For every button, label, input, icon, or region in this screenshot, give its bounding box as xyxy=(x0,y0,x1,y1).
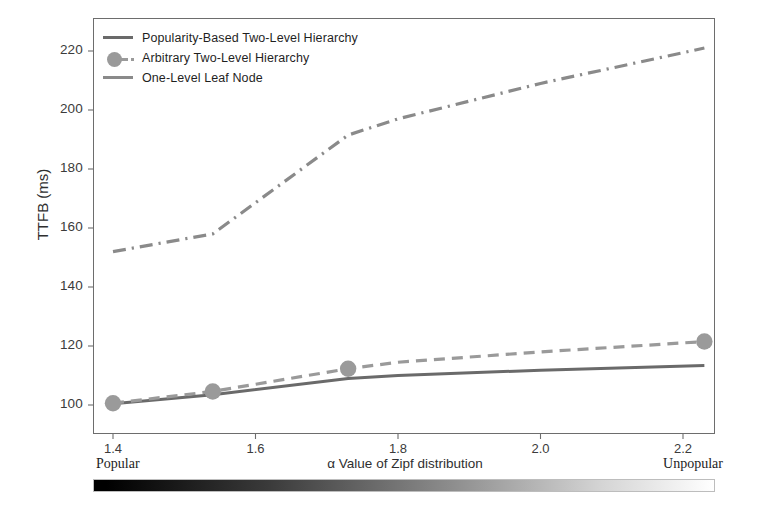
x-tick-label: 1.6 xyxy=(226,441,286,456)
x-tick-label: 1.4 xyxy=(83,441,143,456)
x-tick-label: 2.0 xyxy=(511,441,571,456)
y-tick-label: 180 xyxy=(21,160,83,175)
popular-endpoint-label: Popular xyxy=(96,456,140,472)
y-tick-label: 140 xyxy=(21,278,83,293)
y-tick-label: 120 xyxy=(21,337,83,352)
legend-dashdot-line-icon xyxy=(101,69,135,87)
legend-label-arbitrary: Arbitrary Two-Level Hierarchy xyxy=(142,51,309,65)
y-tick-label: 160 xyxy=(21,219,83,234)
legend-item-arbitrary: Arbitrary Two-Level Hierarchy xyxy=(101,48,401,68)
y-tick-label: 100 xyxy=(21,396,83,411)
x-tick-label: 1.8 xyxy=(368,441,428,456)
unpopular-endpoint-label: Unpopular xyxy=(663,456,723,472)
legend-label-popularity-based: Popularity-Based Two-Level Hierarchy xyxy=(142,31,358,45)
legend-circle-marker-icon xyxy=(101,49,135,67)
legend-solid-line-icon xyxy=(101,29,135,47)
figure-container: TTFB (ms) α Value of Zipf distribution P… xyxy=(0,0,775,510)
x-tick-label: 2.2 xyxy=(653,441,713,456)
legend-label-one-level: One-Level Leaf Node xyxy=(142,71,263,85)
x-axis-label: α Value of Zipf distribution xyxy=(240,456,570,471)
chart-legend: Popularity-Based Two-Level Hierarchy Arb… xyxy=(101,28,401,88)
popularity-gradient-bar xyxy=(93,479,715,492)
y-tick-label: 220 xyxy=(21,42,83,57)
y-tick-label: 200 xyxy=(21,101,83,116)
legend-item-popularity-based: Popularity-Based Two-Level Hierarchy xyxy=(101,28,401,48)
legend-item-one-level: One-Level Leaf Node xyxy=(101,68,401,88)
